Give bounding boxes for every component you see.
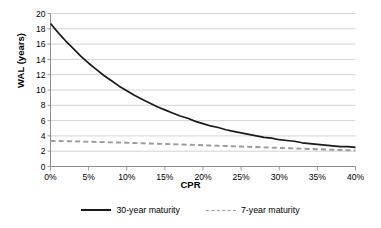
y-tick-label: 10: [36, 85, 46, 95]
legend-line-solid-icon: [81, 209, 111, 211]
legend-item-30-year: 30-year maturity: [81, 205, 180, 215]
legend-label-30-year: 30-year maturity: [116, 205, 180, 215]
y-tick-label: 0: [41, 162, 46, 172]
chart-legend: 30-year maturity 7-year maturity: [0, 205, 381, 215]
y-tick-label: 20: [36, 9, 46, 19]
y-tick-label: 6: [41, 116, 46, 126]
chart-container: WAL (years) 024681012141618200%5%10%15%2…: [0, 0, 381, 228]
plot-area: 024681012141618200%5%10%15%20%25%30%35%4…: [0, 0, 381, 180]
x-axis-title: CPR: [0, 179, 381, 190]
y-tick-label: 2: [41, 146, 46, 156]
legend-line-dashed-icon: [206, 210, 236, 211]
y-tick-label: 18: [36, 24, 46, 34]
y-tick-label: 12: [36, 70, 46, 80]
y-tick-label: 4: [41, 131, 46, 141]
legend-label-7-year: 7-year maturity: [241, 205, 300, 215]
legend-item-7-year: 7-year maturity: [206, 205, 300, 215]
y-tick-label: 16: [36, 39, 46, 49]
y-tick-label: 8: [41, 100, 46, 110]
y-tick-label: 14: [36, 55, 46, 65]
